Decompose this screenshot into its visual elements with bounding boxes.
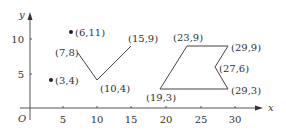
point-label: (6,11) [75, 27, 105, 38]
v-polyline [78, 46, 131, 80]
x-tick-label: 15 [125, 114, 138, 125]
vertex-label: (19,3) [146, 92, 176, 103]
y-ticks: 5 10 [11, 34, 32, 80]
vertex-label: (10,4) [100, 83, 130, 94]
origin-label: O [18, 113, 26, 124]
y-tick-label: 10 [11, 34, 24, 45]
x-ticks: 5 10 15 20 25 30 [60, 106, 242, 125]
x-tick-label: 30 [229, 114, 242, 125]
x-axis-label: x [268, 102, 274, 113]
vertex-label: (15,9) [128, 33, 158, 44]
vertex-label: (29,3) [231, 85, 261, 96]
y-axis-arrow-icon [28, 12, 33, 20]
vertex-label: (23,9) [173, 32, 203, 43]
point-3-4 [49, 78, 53, 82]
y-tick-label: 5 [18, 69, 24, 80]
x-tick-label: 10 [91, 114, 104, 125]
point-6-11 [69, 30, 73, 34]
chart: x y O 5 10 15 20 25 30 5 10 (3,4) (6,11)… [0, 0, 286, 134]
polygon-shape [160, 46, 228, 89]
y-axis-label: y [18, 9, 25, 20]
vertex-label: (29,9) [231, 42, 261, 53]
vertex-label: (7,8) [55, 47, 79, 58]
point-label: (3,4) [55, 75, 79, 86]
x-tick-label: 25 [195, 114, 208, 125]
x-tick-label: 20 [160, 114, 173, 125]
vertex-label: (27,6) [219, 63, 249, 74]
x-axis-arrow-icon [255, 106, 263, 111]
x-tick-label: 5 [60, 114, 66, 125]
